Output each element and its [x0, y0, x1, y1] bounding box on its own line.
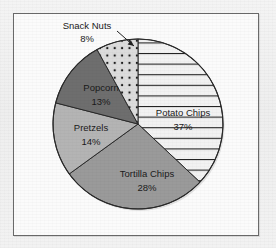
chart-page: Potato Chips 37% Tortilla Chips 28% Pret…	[0, 0, 276, 248]
label-snack-nuts-name: Snack Nuts	[63, 20, 112, 31]
label-potato-chips-name: Potato Chips	[156, 107, 211, 118]
label-snack-nuts-value: 8%	[80, 33, 94, 44]
label-popcorn-value: 13%	[91, 96, 111, 107]
label-potato-chips-value: 37%	[173, 121, 193, 132]
label-pretzels-value: 14%	[81, 136, 101, 147]
pie-chart: Potato Chips 37% Tortilla Chips 28% Pret…	[0, 0, 276, 248]
label-tortilla-chips-value: 28%	[137, 182, 157, 193]
label-popcorn-name: Popcorn	[83, 82, 118, 93]
label-tortilla-chips-name: Tortilla Chips	[120, 168, 175, 179]
label-pretzels-name: Pretzels	[74, 122, 109, 133]
